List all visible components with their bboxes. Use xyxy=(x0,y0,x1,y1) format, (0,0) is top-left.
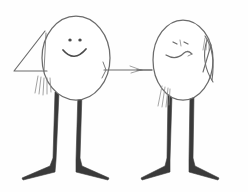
background xyxy=(0,0,248,192)
figure-left-body xyxy=(42,16,110,100)
sketch-canvas: Two hand-drawn stick-egg figures Left fi… xyxy=(0,0,248,192)
eye-right-icon xyxy=(78,39,81,42)
sketch-drawing xyxy=(0,0,248,192)
eye-left-icon xyxy=(68,39,71,42)
figure-right-body xyxy=(153,20,213,100)
